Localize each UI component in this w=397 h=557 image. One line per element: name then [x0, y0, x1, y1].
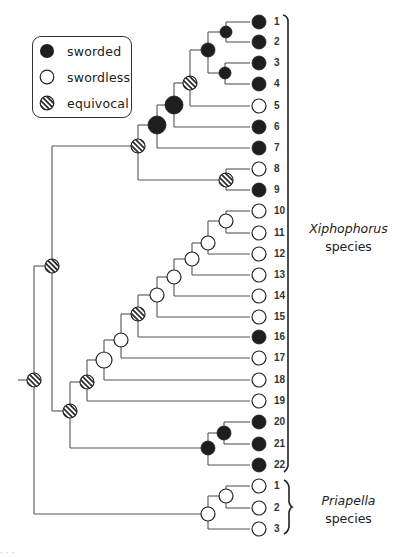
- equivocal-hatched-circle-icon: [39, 95, 55, 111]
- tip-sworded-circle-icon: [252, 56, 266, 70]
- sworded-node-n1_4: [201, 43, 215, 57]
- tip-label-x5: 5: [274, 101, 280, 111]
- tip-label-x20: 20: [274, 417, 285, 427]
- group-label-priapella: Priapella species: [300, 492, 397, 528]
- sworded-filled-circle-icon: [39, 43, 55, 59]
- equivocal-node-n1_9: [131, 139, 145, 153]
- tip-label-x12: 12: [274, 249, 285, 259]
- equivocal-node-n8_9: [219, 173, 233, 187]
- tip-label-p1: 1: [274, 481, 280, 491]
- sworded-node-n1_6: [165, 96, 183, 114]
- tip-sworded-circle-icon: [252, 35, 266, 49]
- tip-label-x1: 1: [274, 17, 280, 27]
- tip-label-x11: 11: [274, 228, 285, 238]
- tip-sworded-circle-icon: [252, 183, 266, 197]
- tip-sworded-circle-icon: [252, 141, 266, 155]
- tip-label-x2: 2: [274, 37, 280, 47]
- tip-label-x16: 16: [274, 332, 285, 342]
- tip-label-x13: 13: [274, 270, 285, 280]
- tip-swordless-circle-icon: [252, 99, 266, 113]
- sworded-node-n3_4: [219, 67, 231, 79]
- tip-swordless-circle-icon: [252, 268, 266, 282]
- tip-swordless-circle-icon: [252, 226, 266, 240]
- tree-tips: [252, 15, 266, 536]
- legend-label: equivocal: [67, 96, 129, 111]
- legend-label: sworded: [67, 44, 121, 59]
- group-label-xiphophorus: Xiphophorus species: [300, 220, 397, 256]
- swordless-node-n10_13: [185, 252, 199, 266]
- tip-label-x4: 4: [274, 79, 280, 89]
- swordless-node-n10_11: [219, 214, 233, 228]
- tip-label-x6: 6: [274, 122, 280, 132]
- tip-label-x22: 22: [274, 460, 285, 470]
- tip-label-x7: 7: [274, 143, 280, 153]
- tip-label-x18: 18: [274, 375, 285, 385]
- tip-swordless-circle-icon: [252, 373, 266, 387]
- tip-swordless-circle-icon: [252, 247, 266, 261]
- tip-label-x8: 8: [274, 164, 280, 174]
- swordless-node-n10_17: [114, 333, 128, 347]
- legend-item-equivocal: equivocal: [39, 93, 129, 113]
- equivocal-node-root: [27, 373, 41, 387]
- swordless-node-n10_12: [201, 236, 215, 250]
- tip-sworded-circle-icon: [252, 120, 266, 134]
- tip-swordless-circle-icon: [252, 310, 266, 324]
- species-word: species: [300, 510, 397, 528]
- swordless-node-n10_14: [167, 270, 181, 284]
- equivocal-node-xipho: [45, 259, 59, 273]
- legend-item-swordless: swordless: [39, 67, 130, 87]
- equivocal-node-n10_22: [63, 404, 77, 418]
- genus-name: Xiphophorus: [300, 220, 397, 238]
- tip-sworded-circle-icon: [252, 458, 266, 472]
- sworded-node-n20_22: [201, 441, 215, 455]
- tip-label-x10: 10: [274, 206, 285, 216]
- swordless-open-circle-icon: [39, 69, 55, 85]
- tip-sworded-circle-icon: [252, 15, 266, 29]
- tip-label-x9: 9: [274, 185, 280, 195]
- tip-label-x21: 21: [274, 439, 285, 449]
- tip-label-x3: 3: [274, 58, 280, 68]
- tip-label-p3: 3: [274, 524, 280, 534]
- tip-sworded-circle-icon: [252, 437, 266, 451]
- tip-swordless-circle-icon: [252, 204, 266, 218]
- sworded-node-n20_21: [217, 426, 231, 440]
- tip-label-p2: 2: [274, 503, 280, 513]
- tip-swordless-circle-icon: [252, 394, 266, 408]
- equivocal-node-n1_5: [183, 76, 197, 90]
- tip-sworded-circle-icon: [252, 415, 266, 429]
- tip-swordless-circle-icon: [252, 479, 266, 493]
- tip-sworded-circle-icon: [252, 330, 266, 344]
- tip-swordless-circle-icon: [252, 501, 266, 515]
- legend: sworded swordless equivocal: [32, 36, 132, 118]
- swordless-node-p1_2: [219, 489, 233, 503]
- tip-label-x14: 14: [274, 291, 285, 301]
- legend-label: swordless: [67, 70, 130, 85]
- tip-label-x19: 19: [274, 396, 285, 406]
- swordless-node-pria: [201, 507, 215, 521]
- sworded-node-n1_7: [148, 116, 166, 134]
- tip-label-x17: 17: [274, 353, 285, 363]
- priapella-brace: [284, 480, 292, 534]
- tip-swordless-circle-icon: [252, 522, 266, 536]
- caption-fragment: · · ·: [0, 548, 397, 557]
- tip-label-x15: 15: [274, 312, 285, 322]
- swordless-node-n10_18: [96, 352, 112, 368]
- tip-swordless-circle-icon: [252, 162, 266, 176]
- equivocal-node-n10_19: [80, 375, 94, 389]
- sworded-node-n1_2: [220, 26, 232, 38]
- legend-item-sworded: sworded: [39, 41, 121, 61]
- swordless-node-n10_15: [150, 288, 164, 302]
- genus-name: Priapella: [300, 492, 397, 510]
- equivocal-node-n10_16: [131, 307, 145, 321]
- tip-sworded-circle-icon: [252, 77, 266, 91]
- tip-swordless-circle-icon: [252, 351, 266, 365]
- tip-swordless-circle-icon: [252, 289, 266, 303]
- species-word: species: [300, 238, 397, 256]
